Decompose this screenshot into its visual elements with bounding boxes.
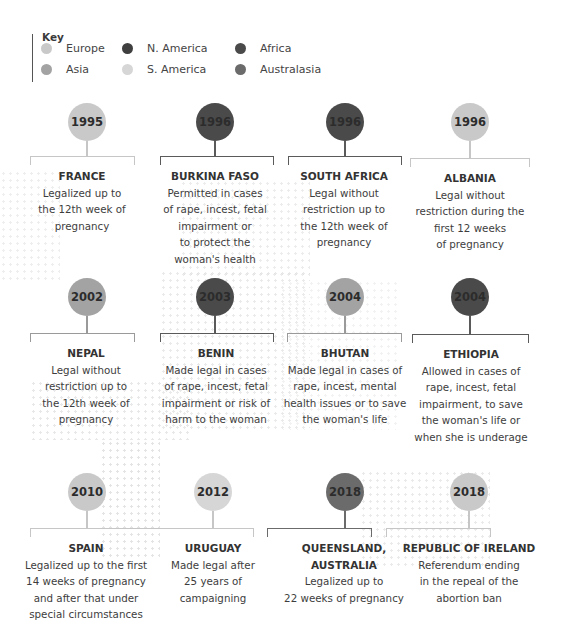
legend-swatch-icon (122, 43, 133, 54)
country-name: URUGUAY (138, 540, 288, 557)
connector-line (214, 316, 216, 333)
law-description: Legal without restriction during the fir… (395, 187, 545, 253)
legend-swatch-icon (41, 64, 52, 75)
legend-item-australasia: Australasia (235, 63, 321, 76)
year-badge: 2012 (194, 473, 232, 511)
bracket-line (412, 334, 529, 343)
bracket-line (287, 333, 402, 342)
legend-label: Australasia (260, 63, 321, 76)
country-name: BURKINA FASO (140, 168, 290, 185)
bracket-line (160, 333, 274, 342)
legend-label: S. America (147, 63, 206, 76)
connector-line (344, 316, 346, 333)
legend-item-asia: Asia (41, 63, 89, 76)
legend-item-s-america: S. America (122, 63, 206, 76)
bracket-line (30, 333, 135, 342)
year-badge: 2018 (450, 473, 488, 511)
legend-swatch-icon (41, 43, 52, 54)
year-badge: 1996 (451, 103, 489, 141)
legend-item-n-america: N. America (122, 42, 208, 55)
bracket-line (30, 156, 135, 165)
connector-line (214, 141, 216, 156)
legend-label: Europe (66, 42, 105, 55)
entry-text: URUGUAYMade legal after 25 years of camp… (138, 540, 288, 606)
legend-label: Asia (66, 63, 89, 76)
connector-line (469, 316, 471, 334)
connector-line (86, 316, 88, 333)
bracket-line (267, 528, 372, 537)
legend-item-europe: Europe (41, 42, 105, 55)
year-badge: 1995 (68, 103, 106, 141)
year-badge: 2002 (68, 278, 106, 316)
bracket-line (30, 528, 254, 537)
country-name: FRANCE (7, 168, 157, 185)
entry-text: FRANCELegalized up to the 12th week of p… (7, 168, 157, 234)
entry-text: ETHIOPIAAllowed in cases of rape, incest… (396, 346, 546, 445)
year-badge: 2004 (451, 278, 489, 316)
law-description: Referendum ending in the repeal of the a… (394, 557, 544, 607)
legend-item-africa: Africa (235, 42, 291, 55)
law-description: Allowed in cases of rape, incest, fetal … (396, 363, 546, 446)
connector-line (86, 141, 88, 156)
law-description: Permitted in cases of rape, incest, feta… (140, 185, 290, 268)
law-description: Legalized up to the 12th week of pregnan… (7, 185, 157, 235)
country-name: ETHIOPIA (396, 346, 546, 363)
entry-text: BURKINA FASOPermitted in cases of rape, … (140, 168, 290, 267)
year-badge: 1996 (196, 103, 234, 141)
entry-text: ALBANIALegal without restriction during … (395, 170, 545, 253)
legend-swatch-icon (235, 43, 246, 54)
bracket-line (386, 528, 491, 537)
law-description: Legal without restriction up to the 12th… (11, 362, 161, 428)
law-description: Made legal in cases of rape, incest, fet… (141, 362, 291, 428)
connector-line (469, 141, 471, 158)
connector-line (344, 511, 346, 528)
connector-line (344, 141, 346, 156)
connector-line (212, 511, 214, 528)
connector-line (468, 511, 470, 528)
country-name: BENIN (141, 345, 291, 362)
connector-line (86, 511, 88, 528)
bracket-line (288, 156, 402, 165)
year-badge: 2004 (326, 278, 364, 316)
legend-label: Africa (260, 42, 291, 55)
entry-text: REPUBLIC OF IRELANDReferendum ending in … (394, 540, 544, 606)
country-name: REPUBLIC OF IRELAND (394, 540, 544, 557)
bracket-line (160, 156, 274, 165)
legend-label: N. America (147, 42, 208, 55)
entry-text: BENINMade legal in cases of rape, incest… (141, 345, 291, 428)
country-name: NEPAL (11, 345, 161, 362)
bracket-line (410, 158, 530, 167)
year-badge: 2018 (326, 473, 364, 511)
law-description: Made legal after 25 years of campaigning (138, 557, 288, 607)
legend-swatch-icon (235, 64, 246, 75)
entry-text: NEPALLegal without restriction up to the… (11, 345, 161, 428)
year-badge: 2010 (68, 473, 106, 511)
year-badge: 2003 (196, 278, 234, 316)
country-name: ALBANIA (395, 170, 545, 187)
legend-swatch-icon (122, 64, 133, 75)
year-badge: 1996 (326, 103, 364, 141)
